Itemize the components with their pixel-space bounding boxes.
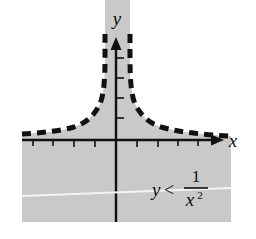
y-axis-label: y [111,8,122,29]
graph-canvas: x y y < 1 x [0,0,256,239]
x-axis-label: x [228,130,238,151]
inequality-lhs: y [150,179,161,200]
inequality-denominator-base: x [185,189,195,210]
figure-container: x y y < 1 x [0,0,256,239]
inequality-numerator: 1 [192,167,201,186]
inequality-operator: < [164,180,174,200]
inequality-denominator-exponent: 2 [197,189,203,201]
